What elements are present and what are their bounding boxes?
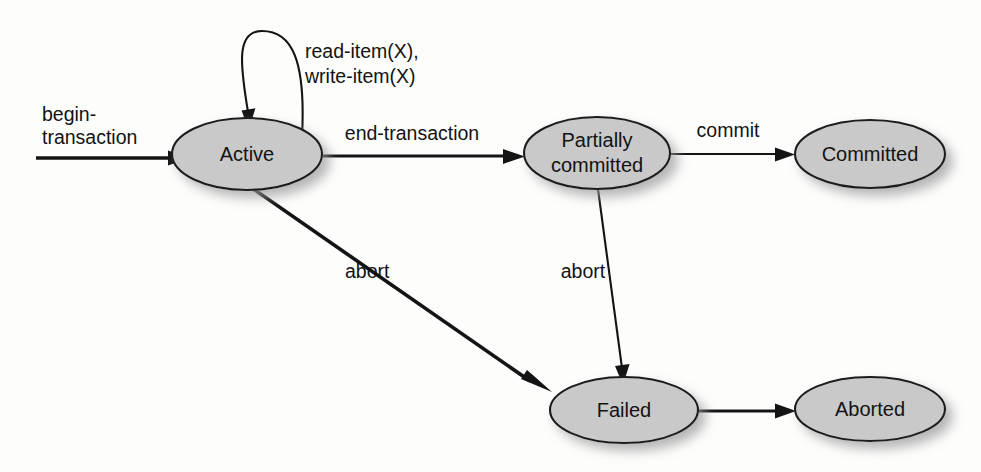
edge-abort-active-line bbox=[252, 188, 530, 381]
edge-abort-active-label: abort bbox=[345, 260, 390, 282]
edge-end-transaction: end-transaction bbox=[322, 122, 525, 164]
node-partially-committed-shape[interactable] bbox=[524, 117, 670, 189]
edge-commit-label: commit bbox=[697, 119, 760, 141]
node-active-label: Active bbox=[220, 143, 274, 165]
node-committed[interactable]: Committed bbox=[795, 120, 945, 188]
edge-failed-aborted-arrowhead bbox=[775, 404, 796, 419]
node-aborted[interactable]: Aborted bbox=[795, 377, 945, 441]
diagram-canvas: begin- transaction read-item(X), write-i… bbox=[0, 0, 981, 472]
edge-abort-active-arrowhead-fill bbox=[521, 370, 552, 392]
edge-commit: commit bbox=[670, 119, 795, 161]
edge-self-loop-label-line1: read-item(X), bbox=[305, 40, 419, 62]
edge-begin-transaction-label-line2: transaction bbox=[42, 126, 137, 148]
transaction-state-diagram: begin- transaction read-item(X), write-i… bbox=[0, 0, 981, 472]
node-partially-committed-label-line2: committed bbox=[551, 154, 643, 176]
edge-begin-transaction-label-line1: begin- bbox=[42, 103, 96, 125]
edge-commit-arrowhead bbox=[775, 148, 795, 162]
edge-self-loop-label-line2: write-item(X) bbox=[304, 65, 416, 87]
node-aborted-label: Aborted bbox=[835, 398, 905, 420]
edge-failed-aborted bbox=[698, 404, 796, 419]
edge-abort-partial-label: abort bbox=[561, 260, 606, 282]
node-failed-label: Failed bbox=[597, 399, 651, 421]
edge-abort-active: abort bbox=[252, 188, 552, 392]
edge-end-transaction-label: end-transaction bbox=[345, 122, 479, 144]
edge-abort-partial: abort bbox=[561, 189, 630, 385]
node-failed[interactable]: Failed bbox=[550, 377, 698, 443]
node-committed-label: Committed bbox=[822, 143, 919, 165]
node-active[interactable]: Active bbox=[172, 118, 322, 190]
node-partially-committed[interactable]: Partially committed bbox=[524, 117, 670, 189]
node-partially-committed-label-line1: Partially bbox=[561, 129, 632, 151]
edge-begin-transaction: begin- transaction bbox=[36, 103, 190, 165]
edge-end-transaction-arrowhead bbox=[503, 149, 525, 164]
